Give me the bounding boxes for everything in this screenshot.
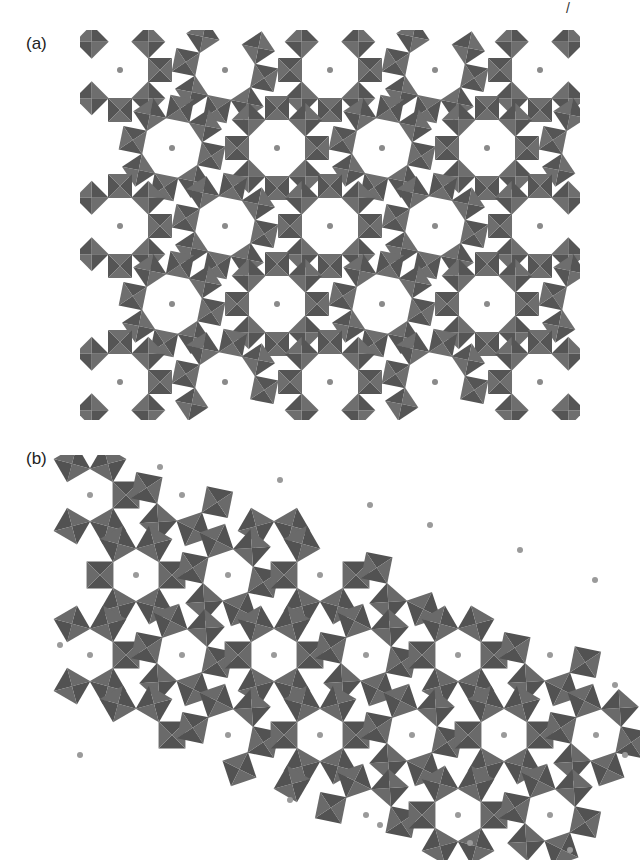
octahedron-icon: [219, 173, 247, 201]
octahedron-icon: [341, 393, 375, 420]
octahedron-icon: [409, 642, 436, 669]
cation-atom-icon: [271, 652, 277, 658]
octahedron-icon: [455, 722, 482, 749]
cation-atom-icon: [157, 464, 163, 470]
octahedron-icon: [315, 632, 347, 664]
cation-atom-icon: [363, 652, 369, 658]
cation-atom-icon: [225, 572, 231, 578]
octahedron-icon: [475, 96, 499, 120]
octahedron-icon: [172, 360, 200, 388]
cation-atom-icon: [274, 145, 280, 151]
octahedron-icon: [551, 30, 580, 59]
octahedron-icon: [475, 252, 499, 276]
cation-atom-icon: [317, 572, 323, 578]
octahedron-icon: [219, 329, 247, 357]
cation-atom-icon: [367, 502, 373, 508]
octahedron-icon: [80, 181, 109, 215]
octahedron-icon: [148, 214, 172, 238]
cation-atom-icon: [622, 752, 628, 758]
octahedron-icon: [265, 176, 289, 200]
cation-atom-icon: [379, 301, 385, 307]
octahedron-icon: [544, 832, 578, 860]
octahedron-icon: [278, 370, 302, 394]
octahedron-icon: [495, 30, 529, 59]
octahedron-icon: [475, 332, 499, 356]
octahedron-icon: [131, 632, 163, 664]
octahedron-icon: [382, 360, 410, 388]
cation-atom-icon: [409, 732, 415, 738]
octahedron-icon: [545, 712, 577, 744]
cation-atom-icon: [377, 822, 383, 828]
cation-atom-icon: [379, 145, 385, 151]
octahedron-icon: [80, 337, 109, 371]
octahedron-icon: [187, 609, 225, 647]
octahedron-icon: [265, 252, 289, 276]
octahedron-icon: [495, 393, 529, 420]
octahedron-icon: [186, 30, 219, 53]
octahedron-icon: [131, 393, 165, 420]
cation-atom-icon: [225, 732, 231, 738]
octahedron-icon: [475, 176, 499, 200]
octahedron-icon: [539, 126, 567, 154]
octahedron-icon: [488, 58, 512, 82]
octahedron-icon: [54, 668, 91, 705]
cation-atom-icon: [484, 301, 490, 307]
cation-atom-icon: [87, 652, 93, 658]
octahedron-icon: [569, 806, 601, 838]
cation-atom-icon: [432, 223, 438, 229]
cation-atom-icon: [117, 67, 123, 73]
octahedron-icon: [54, 455, 91, 482]
octahedron-icon: [407, 298, 435, 326]
octahedron-icon: [452, 31, 485, 64]
cation-atom-icon: [432, 67, 438, 73]
cation-atom-icon: [547, 812, 553, 818]
cation-atom-icon: [327, 67, 333, 73]
octahedron-icon: [429, 173, 457, 201]
octahedron-icon: [148, 58, 172, 82]
cation-atom-icon: [57, 642, 63, 648]
octahedron-icon: [285, 181, 319, 215]
panel-label-a: (a): [26, 34, 47, 54]
octahedron-icon: [488, 214, 512, 238]
cation-atom-icon: [133, 572, 139, 578]
cation-atom-icon: [169, 301, 175, 307]
cation-atom-icon: [592, 577, 598, 583]
octahedron-icon: [371, 769, 409, 807]
octahedron-icon: [177, 712, 209, 744]
octahedron-icon: [148, 370, 172, 394]
octahedron-icon: [90, 455, 127, 482]
cation-atom-icon: [363, 812, 369, 818]
octahedron-icon: [551, 393, 580, 420]
octahedron-icon: [498, 259, 532, 293]
octahedron-icon: [265, 96, 289, 120]
octahedron-icon: [172, 204, 200, 232]
crystal-structure-panel-b: [50, 455, 640, 860]
octahedron-icon: [358, 370, 382, 394]
octahedron-icon: [460, 64, 488, 92]
octahedron-icon: [201, 486, 233, 518]
cation-atom-icon: [455, 652, 461, 658]
octahedron-icon: [569, 646, 601, 678]
octahedron-icon: [177, 552, 209, 584]
crystal-structure-panel-a: [80, 30, 580, 420]
octahedron-icon: [278, 214, 302, 238]
octahedron-icon: [225, 292, 249, 316]
octahedron-icon: [385, 387, 418, 420]
octahedron-icon: [382, 48, 410, 76]
cation-atom-icon: [117, 379, 123, 385]
octahedron-icon: [528, 98, 552, 122]
cation-atom-icon: [567, 847, 573, 853]
octahedron-icon: [409, 802, 436, 829]
octahedron-icon: [225, 642, 252, 669]
cation-atom-icon: [327, 379, 333, 385]
octahedron-icon: [305, 292, 329, 316]
octahedron-icon: [555, 769, 593, 807]
octahedron-icon: [429, 329, 457, 357]
octahedron-icon: [271, 722, 298, 749]
octahedron-icon: [172, 48, 200, 76]
octahedron-icon: [341, 30, 375, 59]
octahedron-icon: [166, 251, 194, 279]
octahedron-icon: [499, 792, 531, 824]
octahedron-icon: [288, 259, 322, 293]
cation-atom-icon: [317, 732, 323, 738]
